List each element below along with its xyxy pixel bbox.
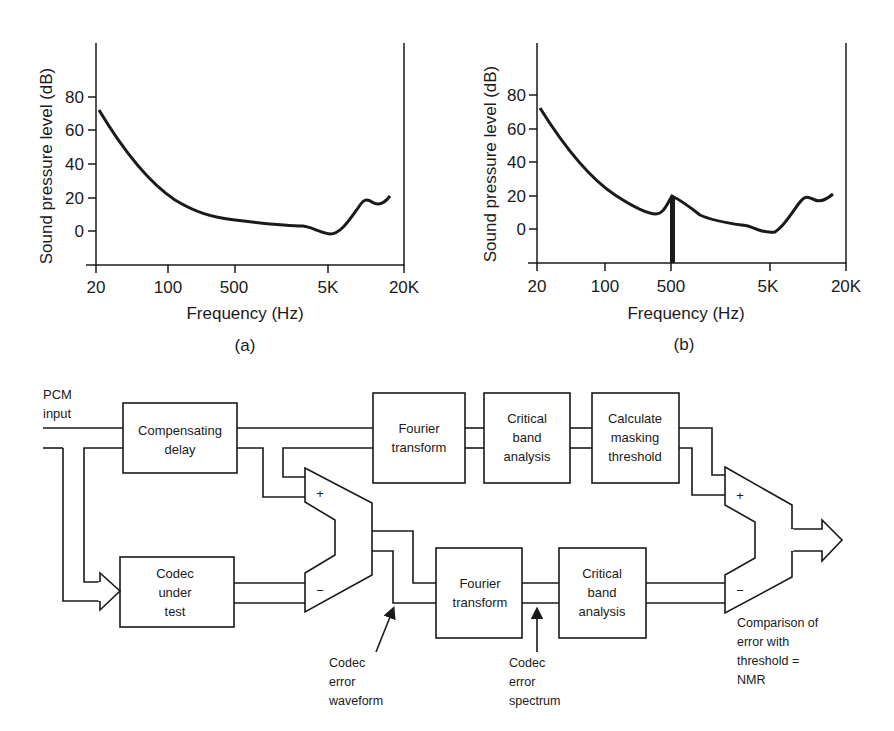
compensating-delay-label-2: delay — [164, 442, 196, 457]
chart-b-x-tick-labels: 20 100 500 5K 20K — [528, 277, 862, 296]
chart-a-y-tick-labels: 80 60 40 20 0 — [65, 88, 84, 241]
masking-threshold-label-2: masking — [611, 430, 659, 445]
y-tick-60: 60 — [507, 120, 526, 139]
x-tick-5k: 5K — [758, 277, 779, 296]
minus-sign-2: − — [736, 583, 744, 598]
fourier-transform-top-box — [373, 393, 465, 483]
chart-b-y-label: Sound pressure level (dB) — [481, 66, 500, 263]
chart-b: 80 60 40 20 0 20 100 500 5K 20K Frequenc… — [481, 43, 862, 354]
y-tick-40: 40 — [65, 155, 84, 174]
y-tick-0: 0 — [517, 220, 526, 239]
chart-a-x-label: Frequency (Hz) — [186, 304, 303, 323]
y-tick-80: 80 — [65, 88, 84, 107]
y-tick-60: 60 — [65, 121, 84, 140]
pcm-input-label: PCM — [43, 387, 72, 402]
error-waveform-note-2: error — [329, 675, 355, 689]
nmr-note-2: error with — [737, 635, 789, 649]
chart-b-y-tick-labels: 80 60 40 20 0 — [507, 86, 526, 239]
chart-a-caption: (a) — [235, 336, 256, 355]
subtractor-1 — [305, 468, 372, 612]
x-tick-5k: 5K — [318, 278, 339, 297]
x-tick-500: 500 — [657, 277, 685, 296]
x-tick-20k: 20K — [831, 277, 862, 296]
x-tick-100: 100 — [591, 277, 619, 296]
y-tick-20: 20 — [507, 187, 526, 206]
masking-threshold-label-3: threshold — [608, 449, 661, 464]
x-tick-500: 500 — [220, 278, 248, 297]
pcm-input-label-2: input — [43, 406, 72, 421]
chart-b-caption: (b) — [674, 335, 695, 354]
codec-label-3: test — [165, 604, 186, 619]
x-tick-100: 100 — [154, 278, 182, 297]
codec-label: Codec — [156, 566, 194, 581]
compensating-delay-label: Compensating — [138, 423, 222, 438]
minus-sign: − — [316, 583, 324, 598]
chart-a-axes — [86, 43, 404, 273]
critical-band-bottom-label-3: analysis — [579, 604, 626, 619]
x-tick-20: 20 — [87, 278, 106, 297]
subtractor-2 — [725, 467, 792, 613]
nmr-note-3: threshold = — [737, 654, 799, 668]
chart-a: 80 60 40 20 0 20 100 500 5K 20K Frequenc… — [37, 43, 420, 355]
masker-tone-bar — [670, 196, 675, 263]
compensating-delay-box — [123, 403, 237, 473]
x-tick-20: 20 — [528, 277, 547, 296]
critical-band-bottom-label-2: band — [588, 585, 617, 600]
chart-a-y-label: Sound pressure level (dB) — [37, 68, 56, 265]
chart-a-x-tick-labels: 20 100 500 5K 20K — [87, 278, 420, 297]
error-waveform-note-3: waveform — [328, 694, 383, 708]
fourier-top-label-2: transform — [392, 440, 447, 455]
nmr-note: Comparison of — [737, 616, 819, 630]
y-tick-80: 80 — [507, 86, 526, 105]
output-arrow — [792, 520, 842, 561]
critical-band-top-label-2: band — [513, 430, 542, 445]
error-spectrum-note-2: error — [509, 675, 535, 689]
nmr-note-4: NMR — [737, 673, 765, 687]
fourier-bottom-label: Fourier — [459, 576, 501, 591]
error-waveform-note: Codec — [329, 656, 365, 670]
y-tick-40: 40 — [507, 153, 526, 172]
figure-canvas: 80 60 40 20 0 20 100 500 5K 20K Frequenc… — [0, 0, 894, 731]
fourier-bottom-label-2: transform — [453, 595, 508, 610]
y-tick-0: 0 — [75, 222, 84, 241]
critical-band-top-label: Critical — [507, 411, 547, 426]
error-spectrum-note: Codec — [509, 656, 545, 670]
fourier-top-label: Fourier — [398, 421, 440, 436]
y-tick-20: 20 — [65, 189, 84, 208]
fourier-transform-bottom-box — [436, 548, 522, 638]
x-tick-20k: 20K — [389, 278, 420, 297]
chart-b-masked-threshold-curve — [540, 108, 833, 232]
critical-band-bottom-label: Critical — [582, 566, 622, 581]
plus-sign-2: + — [736, 488, 744, 503]
plus-sign: + — [316, 486, 324, 501]
chart-b-x-label: Frequency (Hz) — [627, 304, 744, 323]
chart-a-threshold-curve — [99, 110, 390, 234]
diagram-labels: PCM input Compensating delay Codec under… — [43, 387, 819, 708]
error-spectrum-note-3: spectrum — [509, 694, 560, 708]
critical-band-top-label-3: analysis — [504, 449, 551, 464]
codec-label-2: under — [158, 585, 192, 600]
masking-threshold-label: Calculate — [608, 411, 662, 426]
